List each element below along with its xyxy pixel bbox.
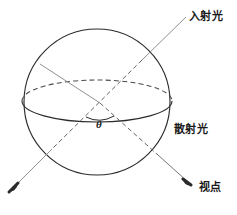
scattered-ray-inside-dashed [100, 103, 158, 155]
incident-light-ray [9, 17, 186, 192]
label-incident-light: 入射光 [189, 11, 223, 22]
label-viewpoint: 视点 [199, 182, 222, 193]
incident-ray-outside-upper [142, 17, 186, 60]
sphere-outline [24, 29, 170, 175]
label-scattered-light: 散射光 [174, 124, 208, 135]
scattered-ray-upper-left [40, 64, 100, 103]
scattering-sphere-diagram: 入射光 散射光 视点 θ [0, 0, 237, 215]
incident-ray-inside-dashed [52, 60, 142, 149]
scattered-light-ray [40, 64, 192, 186]
label-theta-angle: θ [96, 119, 102, 130]
equator-back-dashed [22, 80, 172, 101]
